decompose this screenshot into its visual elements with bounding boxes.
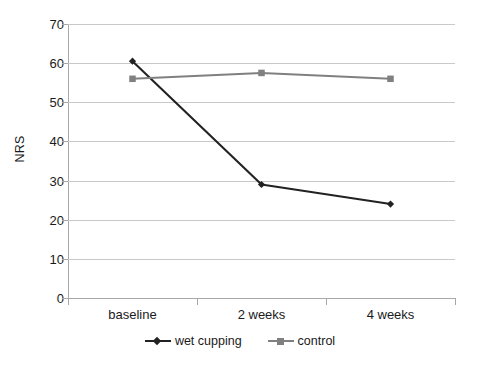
y-axis-tick-mark [62,141,68,142]
y-axis-tick-labels: 010203040506070 [28,0,64,369]
y-axis-tick-label: 20 [30,213,64,226]
gridline [68,220,455,221]
chart-legend: wet cuppingcontrol [0,334,480,348]
legend-swatch-icon [145,336,171,346]
x-axis-tick-mark [326,299,327,305]
y-axis-tick-mark [62,102,68,103]
x-axis-tick-mark [455,299,456,305]
legend-label: wet cupping [174,334,242,348]
legend-item-control[interactable]: control [268,334,336,348]
legend-swatch-icon [268,336,294,346]
y-axis-tick-mark [62,220,68,221]
y-axis-tick-mark [62,24,68,25]
gridline [68,259,455,260]
y-axis-tick-label: 60 [30,57,64,70]
gridline [68,102,455,103]
legend-item-wet-cupping[interactable]: wet cupping [145,334,242,348]
chart-figure: NRS 010203040506070 baseline2 weeks4 wee… [0,0,480,369]
x-axis-tick-mark [68,299,69,305]
y-axis-tick-mark [62,259,68,260]
y-axis-tick-mark [62,63,68,64]
y-axis-title-text: NRS [12,136,26,163]
x-axis-tick-label: 4 weeks [367,308,415,321]
y-axis-title: NRS [8,0,30,298]
legend-label: control [297,334,336,348]
plot-area [68,24,455,298]
gridline [68,63,455,64]
y-axis-tick-label: 30 [30,174,64,187]
x-axis-tick-label: baseline [108,308,156,321]
x-axis-tick-mark [197,299,198,305]
y-axis-tick-mark [62,181,68,182]
y-axis-tick-label: 50 [30,96,64,109]
y-axis-tick-label: 70 [30,18,64,31]
gridline [68,141,455,142]
y-axis-tick-label: 40 [30,135,64,148]
y-axis-tick-label: 10 [30,252,64,265]
x-axis-tick-label: 2 weeks [238,308,286,321]
y-axis-tick-label: 0 [30,292,64,305]
gridline [68,181,455,182]
x-axis-line [68,298,456,299]
y-axis-tick-mark [62,298,68,299]
gridline [68,24,455,25]
